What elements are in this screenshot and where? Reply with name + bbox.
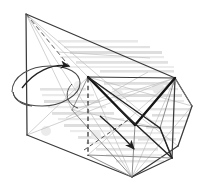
diagram-canvas: Geometric folding diagram rotate fold do… — [0, 0, 204, 190]
edge-apex-to-left-bottom — [26, 14, 27, 135]
geometric-folding-figure — [0, 0, 204, 190]
